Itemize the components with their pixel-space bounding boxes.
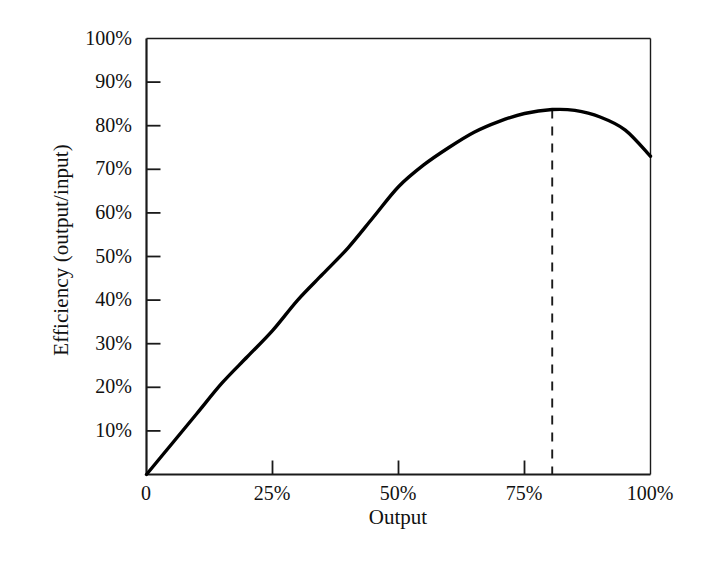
plot-area (0, 0, 706, 562)
axis-frame (147, 39, 651, 475)
x-tick-marks (273, 461, 525, 475)
efficiency-curve (147, 109, 651, 474)
y-tick-marks (147, 82, 161, 431)
efficiency-chart-figure: Efficiency (output/input) 100% 90% 80% 7… (0, 0, 706, 562)
